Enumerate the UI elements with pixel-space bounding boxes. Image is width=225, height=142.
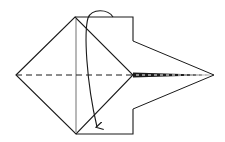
- origami-diagram: Origami folding step: [0, 0, 225, 142]
- rectangle-layer: [75, 17, 133, 134]
- diagram-canvas: [0, 0, 225, 142]
- kite-center-edge: [133, 73, 214, 78]
- diamond-flap: [16, 17, 133, 134]
